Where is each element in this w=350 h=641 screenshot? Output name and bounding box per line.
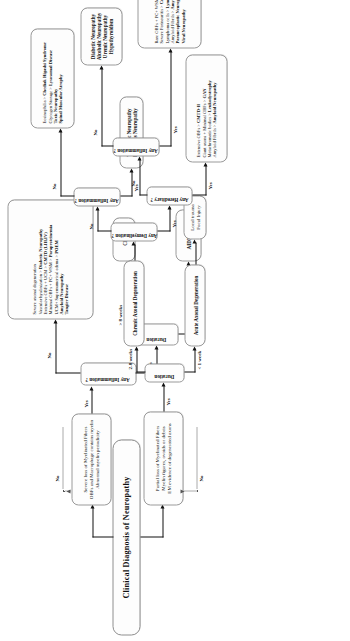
node-outcome-noninflammatory[interactable]: Severe axonal degeneration Vascular hyal… <box>7 199 93 319</box>
edge-acute-to-trauma-arrow <box>192 239 196 243</box>
edge-infl3-no-horiz <box>101 68 102 147</box>
node-outcome-hereditary[interactable]: Extensive OBFs > CMTD-II Giant axons + M… <box>185 54 227 162</box>
diagram-viewport: Clinical Diagnosis of Neuropathy Severe … <box>0 0 350 641</box>
node-acute-axonal-degeneration[interactable]: Acute Axonal Degeneration <box>184 264 205 346</box>
edge-label-dur2-long: 2-8 weeks <box>127 348 132 369</box>
edge-dotted-lower <box>196 427 197 491</box>
hered-line2b: GAN <box>201 88 206 98</box>
edge-label-partial-yes: Yes <box>165 398 170 405</box>
edge-demyel-no-horiz <box>97 209 98 232</box>
node-partial-loss-myelinated-fibers[interactable]: Partial loss of Myelinated Fibers Myelin… <box>143 411 183 505</box>
edge-dotted-lower-arrow <box>180 490 184 494</box>
node-decision-hereditary[interactable]: Any Hereditary ? <box>146 186 192 205</box>
node-root[interactable]: Clinical Diagnosis of Neuropathy <box>112 439 140 635</box>
hered-line1b: CMTD-II <box>195 104 200 123</box>
eosino-line1b: Chediak Higashi Syndrome <box>41 42 46 95</box>
node-outcome-eosinophilia[interactable]: Eosinophilia > Chediak Higashi Syndrome … <box>30 28 74 128</box>
infl-out-line6: Viral Neuropathy <box>180 0 185 45</box>
eosino-line4: Spinal Muscular Atrophy <box>57 31 62 125</box>
decision-inflammation-upper-label: Any Inflammation ? <box>85 365 129 382</box>
decision-demyelination-label: Any Demyelination ? <box>111 225 157 238</box>
decision-inflammation-demyel-label: Any Inflammation ? <box>74 190 118 203</box>
edge-partial-to-dur <box>163 385 164 411</box>
outcome-noninfl-line6: Amyloid Neuropathy <box>58 202 63 316</box>
metabolic-line3: Uremic Neuropathy <box>101 10 107 62</box>
edge-demyel-no-arrow <box>95 206 99 210</box>
edge-severe-to-infl-arrow <box>89 386 93 390</box>
edge-infl-no-horiz <box>55 322 56 374</box>
edge-label-dotted-upper-no: No <box>54 475 59 481</box>
decision-duration-lower-label: Duration <box>154 366 174 379</box>
outcome-noninfl-line4a: Minimal OBFs + PC+ WSM > <box>47 257 52 314</box>
hered-line4a: Amyloid Fibrils > <box>211 123 216 157</box>
eosino-line2a: Glycogen Storage > <box>47 85 52 123</box>
edge-root-up-vert <box>92 536 113 537</box>
edge-label-hered-yes: Yes <box>207 182 212 189</box>
infl-out-line3a: Lymphoma cells > <box>164 8 169 43</box>
edge-infl3-no-vert <box>101 146 113 147</box>
edge-dur2-short-horiz <box>194 349 195 373</box>
infl-out-line4b: Amyloid Neuropathy <box>169 0 174 9</box>
flowchart-canvas: Clinical Diagnosis of Neuropathy Severe … <box>0 0 350 641</box>
edge-chronic-to-demyel-arrow <box>131 241 135 245</box>
edge-root-down-vert <box>140 536 163 537</box>
metabolic-line1: Diabetic Neuropathy <box>89 10 95 62</box>
node-decision-inflammation-demyel[interactable]: Any Inflammation ? <box>73 187 120 206</box>
acute-outcome-line2: Focal Injury <box>195 198 201 236</box>
hered-line3a: Metachromatic bodies > <box>206 112 211 157</box>
edge-label-infl2-no: No <box>51 183 56 189</box>
outcome-noninfl-line5a: UCM+ Supernumerical edema > <box>53 253 58 314</box>
edge-label-hered-no: No <box>130 180 135 186</box>
acute-axonal-label: Acute Axonal Degeneration <box>192 267 198 343</box>
node-severe-loss-myelinated-fibers[interactable]: Severe loss of Myelinated Fibers OBFs an… <box>71 413 111 505</box>
edge-infl2-yes-vert <box>120 196 132 197</box>
hered-line4b: Amyloid Neuropathy <box>211 82 216 123</box>
node-decision-inflammation-hereditary[interactable]: Any Inflammation ? <box>112 137 159 156</box>
edge-label-infl3-yes: Yes <box>172 126 177 133</box>
hered-line2a: Giant axons + Minimal OBFs > <box>201 98 206 157</box>
node-chronic-axonal-degeneration[interactable]: Chronic Axonal Degeneration <box>123 260 144 346</box>
severe-loss-line1: Severe loss of Myelinated Fibers <box>82 416 88 502</box>
edge-label-severe-yes: Yes <box>83 400 88 407</box>
edge-dur2-short-arrow <box>192 346 196 350</box>
edge-label-dur2-short: < 1 week <box>196 350 201 369</box>
outcome-noninfl-line1: Severe axonal degeneration <box>31 202 36 316</box>
edge-infl2-no-vert <box>60 196 74 197</box>
node-decision-duration-lower[interactable]: Duration <box>144 363 184 382</box>
edge-hered-no-arrow <box>137 156 141 160</box>
edge-chronic-to-demyel <box>134 244 135 260</box>
infl-out-line2a: Severe Perineuritis > <box>158 4 163 43</box>
partial-loss-line3: EM evidence of degenerated axons <box>166 414 172 502</box>
edge-label-demyel-yes: Yes <box>171 220 176 227</box>
edge-demyel-yes-horiz <box>169 208 170 232</box>
edge-demyel-yes-arrow <box>167 205 171 209</box>
edge-demyel-yes-vert <box>157 231 170 232</box>
decision-hereditary-label: Any Hereditary ? <box>150 189 188 202</box>
infl-out-line1a: Rare OBFs + PC+ WSM > <box>153 0 158 43</box>
edge-dur2-long-horiz <box>136 349 137 373</box>
edge-label-infl3-no: No <box>92 129 97 135</box>
edge-hered-yes-arrow <box>203 162 207 166</box>
outcome-noninfl-line2a: Vascular hyalinization > <box>37 269 42 314</box>
node-outcome-metabolic[interactable]: Diabetic Neuropathy Alcoholic Neuropathy… <box>80 7 122 65</box>
outcome-noninfl-line5b: POEM <box>53 240 58 254</box>
edge-dotted-lower-v <box>184 490 197 491</box>
edge-infl2-yes-arrow <box>129 168 133 172</box>
metabolic-line4: Hypothyroidism <box>107 10 113 62</box>
node-decision-demyelination[interactable]: Any Demyelination ? <box>110 222 157 241</box>
node-outcome-inflammatory[interactable]: Rare OBFs + PC+ WSM > Paraproteinemia Se… <box>137 0 201 48</box>
hered-line1a: Extensive OBFs > <box>195 122 200 157</box>
outcome-noninfl-line3a: Extensive OBFs + UCM > <box>42 264 47 314</box>
edge-infl3-yes-horiz <box>170 51 171 147</box>
infl-out-line2b: Cryoglobulinemia <box>158 0 163 4</box>
outcome-noninfl-line2b: Diabetic Neuropathy <box>37 228 42 268</box>
edge-hered-yes-vert <box>192 195 206 196</box>
edge-label-dotted-lower-no: No <box>198 475 203 481</box>
edge-infl3-no-arrow <box>99 65 103 69</box>
edge-dur2-long-arrow <box>134 346 138 350</box>
edge-partial-to-dur-arrow <box>161 382 165 386</box>
edge-dotted-upper <box>62 427 63 491</box>
edge-label-infl-no: No <box>46 352 51 358</box>
edge-infl-no-vert <box>55 373 80 374</box>
infl-out-line3b: Lymphomatous Neuropathy <box>164 0 169 8</box>
